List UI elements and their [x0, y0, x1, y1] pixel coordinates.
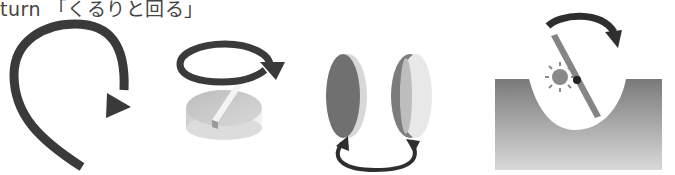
illustrations — [0, 0, 675, 175]
earth-rotation-icon — [495, 16, 662, 170]
spinning-disc-icon — [180, 44, 285, 140]
flipping-discs-icon — [326, 54, 432, 170]
circular-arrow-icon — [14, 24, 131, 167]
